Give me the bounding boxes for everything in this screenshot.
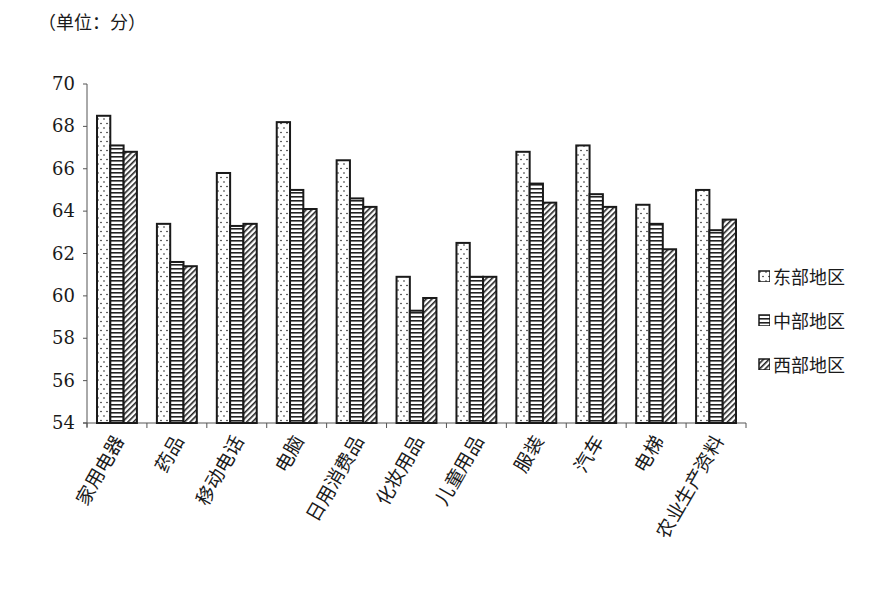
bar [363, 207, 376, 423]
x-tick-label: 家用电器 [71, 432, 128, 509]
y-tick-label: 70 [52, 73, 75, 94]
legend-label: 西部地区 [773, 351, 845, 377]
y-tick-label: 56 [52, 370, 75, 391]
bar [157, 224, 170, 423]
bar [303, 209, 316, 423]
bar [243, 224, 256, 423]
bar [603, 207, 616, 423]
bar [184, 266, 197, 423]
bar [423, 298, 436, 423]
x-axis-labels: 家用电器药品移动电话电脑日用消费品化妆用品儿童用品服装汽车电梯农业生产资料 [71, 432, 727, 542]
x-tick-label: 电梯 [630, 432, 668, 476]
y-tick-label: 64 [52, 200, 75, 221]
x-tick-label: 电脑 [270, 432, 308, 476]
legend-label: 中部地区 [773, 307, 845, 333]
legend-item: 西部地区 [758, 342, 845, 386]
bar [483, 277, 496, 423]
bar [723, 220, 736, 423]
bar [649, 224, 662, 423]
bar [636, 205, 649, 423]
bar [170, 262, 183, 423]
x-tick-label: 汽车 [570, 432, 608, 476]
legend-item: 中部地区 [758, 298, 845, 342]
bar [290, 190, 303, 423]
x-tick-label: 移动电话 [191, 432, 248, 509]
legend-swatch-icon [758, 358, 770, 370]
bar [337, 160, 350, 423]
x-tick-label: 日用消费品 [302, 432, 369, 525]
legend-label: 东部地区 [773, 263, 845, 289]
bar [696, 190, 709, 423]
bar [543, 203, 556, 423]
y-tick-label: 54 [52, 412, 75, 433]
bar [277, 122, 290, 423]
bar [124, 152, 137, 423]
bar [590, 194, 603, 423]
bar [530, 184, 543, 423]
bar [470, 277, 483, 423]
bar [663, 249, 676, 423]
bar [709, 230, 722, 423]
bar [516, 152, 529, 423]
bar [217, 173, 230, 423]
bar [456, 243, 469, 423]
bar [576, 145, 589, 423]
y-tick-label: 60 [52, 285, 75, 306]
bar [410, 311, 423, 423]
y-tick-label: 68 [52, 115, 75, 136]
y-tick-label: 62 [52, 243, 75, 264]
bars [97, 116, 736, 423]
x-tick-label: 儿童用品 [431, 432, 488, 509]
x-tick-label: 服装 [510, 432, 548, 476]
legend-swatch-icon [758, 314, 770, 326]
legend: 东部地区中部地区西部地区 [758, 254, 845, 386]
legend-swatch-icon [758, 270, 770, 282]
bar [110, 145, 123, 423]
y-tick-label: 66 [52, 158, 75, 179]
x-tick-label: 化妆用品 [371, 432, 428, 509]
bar [350, 198, 363, 423]
bar [230, 226, 243, 423]
x-tick-label: 药品 [150, 432, 188, 476]
bar [397, 277, 410, 423]
legend-item: 东部地区 [758, 254, 845, 298]
y-tick-label: 58 [52, 327, 75, 348]
bar [97, 116, 110, 423]
